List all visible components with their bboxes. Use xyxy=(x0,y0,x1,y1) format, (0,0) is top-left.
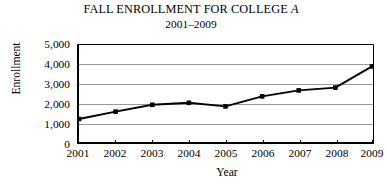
data-point-2004 xyxy=(187,101,192,106)
data-series-markers xyxy=(77,64,374,121)
x-tick-label-2008: 2008 xyxy=(317,148,357,159)
data-point-2009 xyxy=(370,64,374,69)
data-point-2003 xyxy=(150,103,155,108)
x-tick-label-2005: 2005 xyxy=(206,148,246,159)
plot-area xyxy=(77,44,374,144)
chart-title-italic-college-letter: A xyxy=(291,2,299,16)
plot-frame xyxy=(77,44,374,144)
x-tick-label-2007: 2007 xyxy=(280,148,320,159)
data-point-2008 xyxy=(333,85,338,90)
y-tick-label-3000: 3,000 xyxy=(34,79,70,90)
chart-subtitle: 2001–2009 xyxy=(0,18,382,31)
data-point-2007 xyxy=(296,88,301,93)
x-tick-label-2003: 2003 xyxy=(132,148,172,159)
x-tick-label-2004: 2004 xyxy=(169,148,209,159)
x-axis-title: Year xyxy=(77,166,377,179)
x-tick-label-2006: 2006 xyxy=(243,148,283,159)
y-tick-label-4000: 4,000 xyxy=(34,59,70,70)
y-tick-label-2000: 2,000 xyxy=(34,99,70,110)
data-point-2006 xyxy=(260,94,265,99)
y-tick-label-1000: 1,000 xyxy=(34,119,70,130)
data-series-line xyxy=(79,66,372,119)
title-block: FALL ENROLLMENT FOR COLLEGE A 2001–2009 xyxy=(0,3,382,31)
x-tick-label-2009: 2009 xyxy=(352,148,388,159)
data-point-2005 xyxy=(223,104,228,109)
gridlines xyxy=(77,65,374,125)
data-point-2001 xyxy=(77,117,81,122)
x-tick-label-2001: 2001 xyxy=(58,148,98,159)
y-tick-label-5000: 5,000 xyxy=(34,39,70,50)
chart-title-text: FALL ENROLLMENT FOR COLLEGE xyxy=(83,2,291,16)
y-axis-title: Enrollment xyxy=(10,29,23,109)
data-point-2002 xyxy=(113,109,118,114)
x-tick-label-2002: 2002 xyxy=(95,148,135,159)
plot-svg xyxy=(77,44,374,144)
chart-title: FALL ENROLLMENT FOR COLLEGE A xyxy=(0,3,382,17)
